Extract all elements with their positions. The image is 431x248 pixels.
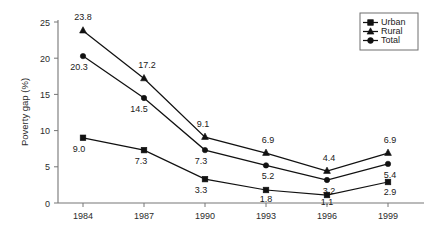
series-total-point xyxy=(80,53,85,58)
data-label-total: 20.3 xyxy=(70,62,88,72)
series-total-point xyxy=(385,161,390,166)
y-tick-label: 25 xyxy=(40,18,50,28)
series-urban-point xyxy=(80,135,86,141)
x-tick-label: 1996 xyxy=(317,211,337,221)
data-label-total: 5.2 xyxy=(262,171,275,181)
x-tick-label: 1990 xyxy=(195,211,215,221)
data-label-urban: 3.3 xyxy=(195,185,208,195)
series-total-point xyxy=(263,163,268,168)
series-total: 20.3 14.5 7.3 5.2 3.2 5.4 xyxy=(70,53,396,195)
y-tick-label: 20 xyxy=(40,54,50,64)
data-label-rural: 17.2 xyxy=(138,60,156,70)
series-total-point xyxy=(324,177,329,182)
data-label-total: 14.5 xyxy=(130,104,148,114)
data-label-urban: 2.9 xyxy=(384,187,397,197)
series-urban: 9.0 7.3 3.3 1.8 1.1 2.9 xyxy=(73,135,397,207)
x-axis-ticks: 1984 1987 1990 1993 1996 1999 xyxy=(73,203,398,221)
y-axis-ticks: 0 5 10 15 20 25 xyxy=(40,18,58,209)
data-label-rural: 4.4 xyxy=(323,153,336,163)
series-rural: 23.8 17.2 9.1 6.9 4.4 6.9 xyxy=(74,12,396,173)
legend-label-total: Total xyxy=(381,35,400,45)
chart-legend[interactable]: Urban Rural Total xyxy=(360,13,418,50)
data-label-total: 5.4 xyxy=(384,170,397,180)
series-urban-point xyxy=(202,176,208,182)
data-label-rural: 6.9 xyxy=(384,135,397,145)
data-label-urban: 7.3 xyxy=(135,156,148,166)
series-total-line xyxy=(83,56,388,180)
x-tick-label: 1999 xyxy=(378,211,398,221)
data-label-rural: 9.1 xyxy=(197,119,210,129)
series-rural-point xyxy=(141,75,148,81)
data-label-total: 7.3 xyxy=(195,156,208,166)
data-label-rural: 6.9 xyxy=(262,135,275,145)
y-axis-title: Poverty gap (%) xyxy=(19,78,30,146)
y-tick-label: 15 xyxy=(40,90,50,100)
series-urban-point xyxy=(385,179,391,185)
data-label-urban: 9.0 xyxy=(73,144,86,154)
series-urban-point xyxy=(141,147,147,153)
series-urban-point xyxy=(263,187,269,193)
data-label-rural: 23.8 xyxy=(74,12,92,22)
x-tick-label: 1987 xyxy=(134,211,154,221)
chart-canvas: Poverty gap (%) 0 5 10 15 20 25 1984 198… xyxy=(0,0,431,248)
series-total-point xyxy=(141,95,146,100)
poverty-gap-line-chart: Poverty gap (%) 0 5 10 15 20 25 1984 198… xyxy=(0,0,431,248)
series-total-point xyxy=(202,147,207,152)
square-marker-icon xyxy=(368,20,374,26)
y-tick-label: 0 xyxy=(45,199,50,209)
x-tick-label: 1984 xyxy=(73,211,93,221)
series-rural-line xyxy=(83,31,388,171)
data-label-urban: 1.8 xyxy=(260,194,273,204)
y-tick-label: 5 xyxy=(45,162,50,172)
series-rural-point xyxy=(385,149,392,155)
y-tick-label: 10 xyxy=(40,126,50,136)
series-rural-point xyxy=(80,27,87,33)
x-tick-label: 1993 xyxy=(256,211,276,221)
circle-marker-icon xyxy=(368,38,374,44)
data-label-urban: 1.1 xyxy=(321,197,334,207)
